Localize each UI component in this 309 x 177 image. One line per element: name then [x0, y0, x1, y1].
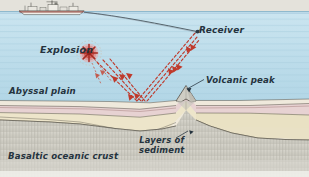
label-layers-of-line2: sediment: [139, 145, 185, 155]
figure-root: Explosion Receiver Abyssal plain Volcani…: [0, 0, 309, 177]
label-abyssal-plain: Abyssal plain: [9, 87, 76, 96]
label-volcanic-peak: Volcanic peak: [206, 76, 275, 85]
label-explosion: Explosion: [40, 45, 93, 55]
label-basaltic-crust: Basaltic oceanic crust: [8, 152, 118, 161]
label-layers-of-sediment: Layers of sediment: [139, 136, 185, 156]
label-receiver: Receiver: [199, 26, 244, 35]
label-layers-of-line1: Layers of: [139, 135, 184, 145]
